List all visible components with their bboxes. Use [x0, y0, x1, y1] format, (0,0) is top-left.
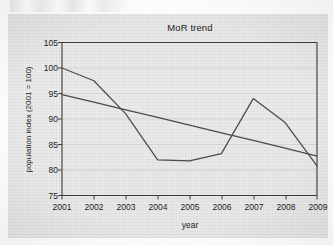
data-series-population-index — [62, 68, 317, 166]
gridlines — [62, 68, 317, 170]
chart-figure: MoR trend population index (2001 = 100) … — [0, 0, 333, 245]
y-tick-marks — [58, 43, 62, 196]
plot-area — [0, 0, 333, 245]
data-series-linear-trend — [62, 95, 317, 157]
x-tick-marks — [62, 196, 317, 200]
